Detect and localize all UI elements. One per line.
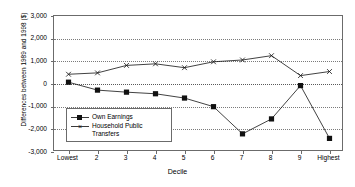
- x-marker-icon: ×: [70, 122, 90, 130]
- series-line: [69, 56, 330, 76]
- legend-label: Own Earnings: [92, 113, 133, 121]
- x-axis-title: Decile: [0, 168, 355, 175]
- y-tick-label: -3,000: [7, 148, 47, 155]
- data-point-marker: [124, 90, 129, 95]
- y-tick-label: -1,000: [7, 102, 47, 109]
- data-point-marker: [298, 83, 303, 88]
- y-axis-title: Differences between 1989 and 1998 ($): [20, 0, 27, 145]
- data-point-marker: [66, 80, 71, 85]
- legend-label: Household Public Transfers: [92, 122, 166, 137]
- data-point-marker: [95, 88, 100, 93]
- square-marker-icon: [70, 113, 90, 121]
- chart-figure: Differences between 1989 and 1998 ($) 3,…: [0, 0, 355, 187]
- data-point-marker: [153, 91, 158, 96]
- x-tick-label: Highest: [306, 154, 352, 161]
- y-tick-label: 1,000: [7, 57, 47, 64]
- data-point-marker: [240, 131, 245, 136]
- data-point-marker: [211, 104, 216, 109]
- data-point-marker: [327, 136, 332, 141]
- data-point-marker: [269, 116, 274, 121]
- y-tick-mark: [51, 152, 54, 153]
- y-tick-label: 0: [7, 80, 47, 87]
- legend-item: Own Earnings: [70, 113, 166, 121]
- y-tick-label: -2,000: [7, 125, 47, 132]
- y-tick-label: 2,000: [7, 34, 47, 41]
- chart-legend: Own Earnings×Household Public Transfers: [66, 108, 172, 142]
- y-tick-label: 3,000: [7, 12, 47, 19]
- data-point-marker: [182, 95, 187, 100]
- legend-item: ×Household Public Transfers: [70, 122, 166, 137]
